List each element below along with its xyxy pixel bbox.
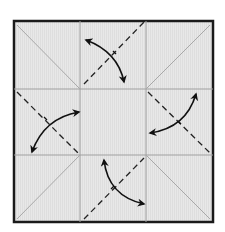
diagram-svg xyxy=(0,0,225,232)
origami-diagram xyxy=(0,0,225,232)
